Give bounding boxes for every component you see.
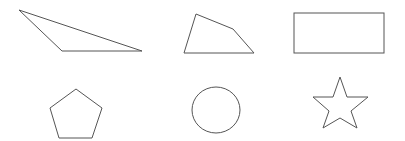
shapes-canvas — [0, 0, 405, 141]
rectangle-shape — [294, 13, 384, 53]
triangle-shape — [19, 10, 142, 51]
star-shape — [313, 77, 368, 128]
pentagon-shape — [50, 89, 102, 138]
quadrilateral-shape — [184, 14, 254, 53]
circle-shape — [192, 87, 240, 133]
